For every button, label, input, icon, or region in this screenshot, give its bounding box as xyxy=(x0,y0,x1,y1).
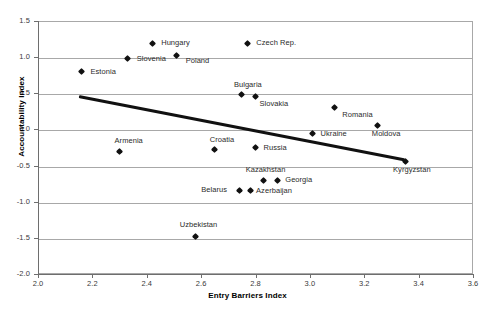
y-tick-mark xyxy=(34,57,38,58)
x-tick-label: 2.2 xyxy=(77,279,107,288)
data-point-label: Kazakhstan xyxy=(246,165,286,174)
y-tick-mark xyxy=(34,202,38,203)
data-point-label: Croatia xyxy=(210,135,235,144)
data-point-label: Uzbekistan xyxy=(180,220,218,229)
y-tick-mark xyxy=(34,21,38,22)
x-tick-mark xyxy=(92,274,93,278)
data-point-label: Ukraine xyxy=(321,129,347,138)
x-tick-mark xyxy=(310,274,311,278)
data-point-label: Kyrgyzstan xyxy=(393,165,431,174)
data-point-label: Hungary xyxy=(161,38,190,47)
y-tick-mark xyxy=(34,166,38,167)
data-point-label: Belarus xyxy=(201,185,227,194)
y-tick-label: -1.0 xyxy=(4,197,30,206)
data-point-label: Poland xyxy=(186,56,210,65)
y-tick-label: 1.5 xyxy=(4,16,30,25)
y-tick-mark xyxy=(34,93,38,94)
scatter-chart: 1.51.00.50.0-0.5-1.0-1.5-2.0 2.02.22.42.… xyxy=(0,0,495,314)
x-tick-mark xyxy=(147,274,148,278)
data-point-label: Czech Rep. xyxy=(256,38,296,47)
x-tick-mark xyxy=(201,274,202,278)
x-axis-title: Entry Barriers Index xyxy=(0,291,495,300)
data-point-label: Georgia xyxy=(285,175,312,184)
x-tick-mark xyxy=(364,274,365,278)
y-axis-title: Accountability Index xyxy=(17,52,26,182)
x-tick-label: 2.8 xyxy=(241,279,271,288)
data-point-label: Bulgaria xyxy=(234,80,262,89)
data-point-label: Estonia xyxy=(91,67,116,76)
x-tick-label: 3.6 xyxy=(458,279,488,288)
data-point-label: Romania xyxy=(342,110,372,119)
x-tick-label: 2.6 xyxy=(186,279,216,288)
y-axis-line xyxy=(38,21,39,274)
data-point-label: Azerbaijan xyxy=(256,186,292,195)
x-tick-label: 2.4 xyxy=(132,279,162,288)
x-tick-mark xyxy=(38,274,39,278)
data-point-label: Slovakia xyxy=(260,99,289,108)
gridline xyxy=(39,203,472,204)
x-tick-mark xyxy=(473,274,474,278)
y-tick-label: -2.0 xyxy=(4,269,30,278)
y-tick-mark xyxy=(34,129,38,130)
x-tick-label: 2.0 xyxy=(23,279,53,288)
x-tick-label: 3.0 xyxy=(295,279,325,288)
data-point-label: Russia xyxy=(264,143,287,152)
data-point-label: Slovenia xyxy=(137,54,166,63)
x-tick-mark xyxy=(256,274,257,278)
y-tick-mark xyxy=(34,238,38,239)
x-tick-mark xyxy=(419,274,420,278)
data-point-label: Armenia xyxy=(115,136,143,145)
data-point-label: Moldova xyxy=(372,129,401,138)
x-tick-label: 3.4 xyxy=(404,279,434,288)
x-tick-label: 3.2 xyxy=(349,279,379,288)
gridline xyxy=(39,58,472,59)
gridline xyxy=(39,239,472,240)
y-tick-label: -1.5 xyxy=(4,233,30,242)
